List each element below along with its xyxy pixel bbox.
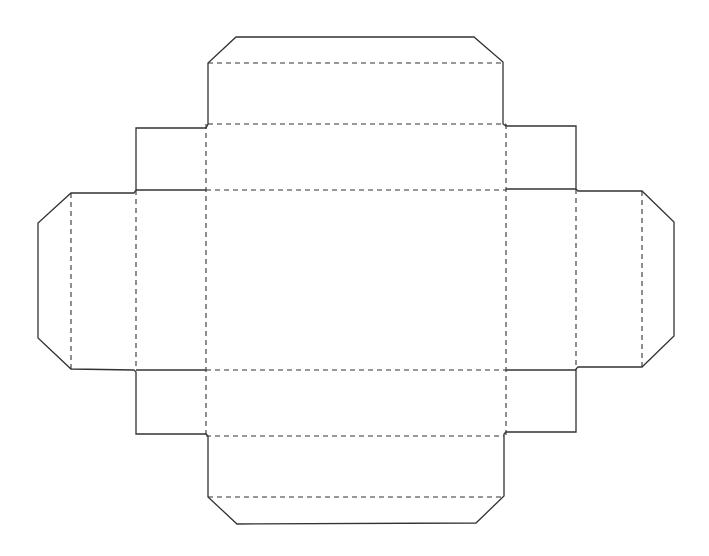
outer-cut-outline (38, 37, 674, 524)
box-net-diagram (0, 0, 709, 556)
